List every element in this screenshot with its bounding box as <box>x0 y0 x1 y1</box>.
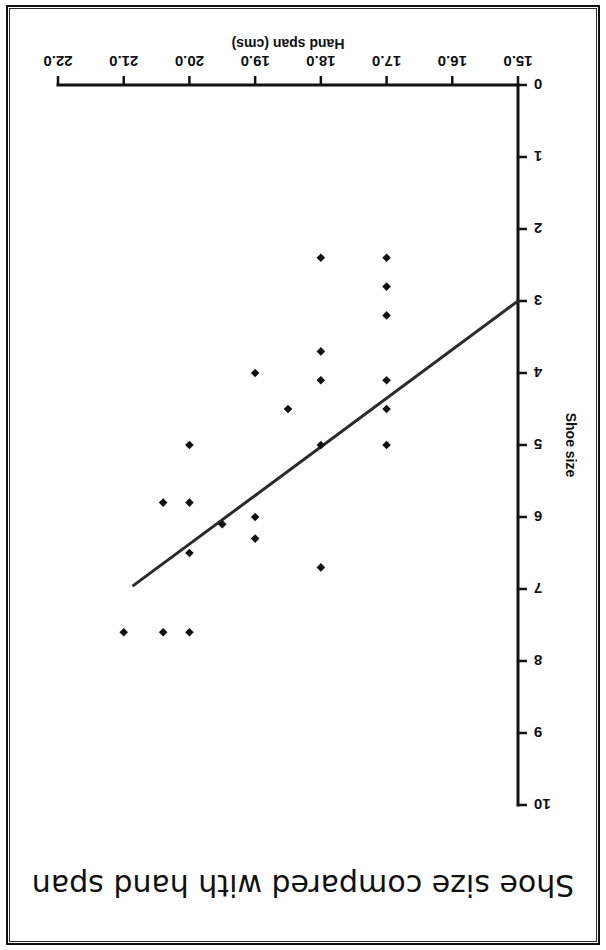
data-point <box>317 347 326 356</box>
y-tick-label: 3 <box>534 292 542 309</box>
data-point <box>159 628 168 637</box>
y-tick-label: 8 <box>534 652 542 669</box>
data-point <box>185 441 194 450</box>
data-point <box>251 369 260 378</box>
y-tick-label: 5 <box>534 436 542 453</box>
data-point <box>317 563 326 572</box>
y-tick-label: 7 <box>534 580 542 597</box>
x-tick-label: 17.0 <box>372 53 401 70</box>
y-tick-label: 10 <box>534 796 551 813</box>
chart-svg: Shoe size compared with hand span 012345… <box>10 9 596 941</box>
x-tick-label: 21.0 <box>109 53 138 70</box>
data-point <box>119 628 128 637</box>
x-tick-label: 22.0 <box>43 53 72 70</box>
y-tick-label: 0 <box>534 76 542 93</box>
x-tick-label: 20.0 <box>175 53 204 70</box>
y-tick-label: 2 <box>534 220 542 237</box>
y-tick-label: 9 <box>534 724 542 741</box>
data-point <box>284 405 293 414</box>
scanned-page: Shoe size compared with hand span 012345… <box>0 0 606 950</box>
figure-rotation-wrapper: Shoe size compared with hand span 012345… <box>10 9 596 941</box>
data-point <box>382 441 391 450</box>
data-point <box>185 498 194 507</box>
data-points <box>119 254 390 637</box>
y-tick-label: 6 <box>534 508 542 525</box>
y-axis-tick-labels: 012345678910 <box>533 76 550 813</box>
x-tick-label: 15.0 <box>503 53 532 70</box>
data-point <box>317 254 326 263</box>
y-axis-label: Shoe size <box>563 413 579 478</box>
data-point <box>382 405 391 414</box>
data-point <box>382 311 391 320</box>
chart-title: Shoe size compared with hand span <box>32 868 575 903</box>
x-axis-tick-labels: 15.016.017.018.019.020.021.022.0 <box>43 53 532 70</box>
x-axis-label: Hand span (cms) <box>232 36 345 52</box>
data-point <box>382 282 391 291</box>
data-point <box>185 628 194 637</box>
x-tick-label: 18.0 <box>306 53 335 70</box>
data-point <box>251 534 260 543</box>
data-point <box>159 498 168 507</box>
x-tick-label: 16.0 <box>438 53 467 70</box>
data-point <box>382 254 391 263</box>
data-point <box>317 376 326 385</box>
y-tick-label: 4 <box>533 364 542 381</box>
data-point <box>185 549 194 558</box>
data-point <box>251 513 260 522</box>
y-tick-label: 1 <box>534 148 542 165</box>
data-point <box>382 376 391 385</box>
x-tick-label: 19.0 <box>241 53 270 70</box>
scatter-chart: Shoe size compared with hand span 012345… <box>10 9 596 941</box>
